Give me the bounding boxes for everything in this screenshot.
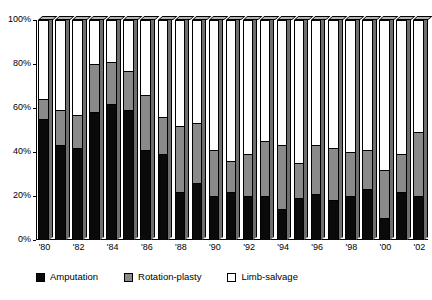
- bar-column[interactable]: [89, 20, 100, 240]
- bar-segment-limb-salvage: [362, 20, 373, 150]
- bar-side-face: [100, 17, 104, 240]
- y-tick-mark: [33, 240, 36, 241]
- bar-segment-rotation-plasty: [277, 145, 288, 209]
- bars-group: [36, 20, 428, 240]
- bar-column[interactable]: [192, 20, 203, 240]
- bar-side-face: [134, 17, 138, 240]
- bar-segment-amputation: [123, 110, 134, 240]
- bar-segment-rotation-plasty: [294, 163, 305, 198]
- bar-side-face: [253, 17, 257, 240]
- bar-segment-amputation: [345, 196, 356, 240]
- bar-segment-amputation: [413, 196, 424, 240]
- bar-column[interactable]: [55, 20, 66, 240]
- bar-segment-limb-salvage: [311, 20, 322, 145]
- x-tick-label: '94: [277, 242, 289, 252]
- bar-column[interactable]: [328, 20, 339, 240]
- legend-item[interactable]: Limb-salvage: [227, 272, 298, 282]
- bar-column[interactable]: [311, 20, 322, 240]
- bar-column[interactable]: [243, 20, 254, 240]
- x-tick-label: '02: [414, 242, 426, 252]
- bar-segment-amputation: [328, 200, 339, 240]
- bar-segment-rotation-plasty: [362, 150, 373, 190]
- bar-segment-limb-salvage: [158, 20, 169, 117]
- bar-column[interactable]: [123, 20, 134, 240]
- y-tick-label: 0%: [18, 235, 31, 244]
- bar-side-face: [66, 17, 70, 240]
- bar-segment-amputation: [175, 192, 186, 240]
- bar-segment-amputation: [55, 145, 66, 240]
- bar-segment-amputation: [89, 112, 100, 240]
- legend-item[interactable]: Amputation: [36, 272, 98, 282]
- bar-column[interactable]: [158, 20, 169, 240]
- bar-segment-limb-salvage: [396, 20, 407, 154]
- bar-column[interactable]: [260, 20, 271, 240]
- y-tick-label: 60%: [13, 103, 31, 112]
- limb-salvage-swatch: [227, 273, 236, 282]
- x-tick-label: '88: [175, 242, 187, 252]
- bar-segment-amputation: [260, 196, 271, 240]
- bar-column[interactable]: [38, 20, 49, 240]
- bar-segment-amputation: [38, 119, 49, 240]
- y-tick-label: 40%: [13, 147, 31, 156]
- bar-segment-rotation-plasty: [413, 132, 424, 196]
- bar-segment-rotation-plasty: [89, 64, 100, 112]
- bar-segment-limb-salvage: [277, 20, 288, 145]
- bar-column[interactable]: [175, 20, 186, 240]
- bar-column[interactable]: [277, 20, 288, 240]
- bar-segment-limb-salvage: [294, 20, 305, 163]
- bar-segment-limb-salvage: [140, 20, 151, 95]
- bar-side-face: [117, 17, 121, 240]
- bar-segment-amputation: [158, 154, 169, 240]
- bar-segment-amputation: [140, 150, 151, 240]
- bar-segment-amputation: [294, 198, 305, 240]
- bar-segment-amputation: [192, 183, 203, 240]
- bar-segment-limb-salvage: [345, 20, 356, 152]
- legend-label: Limb-salvage: [241, 272, 298, 282]
- bar-column[interactable]: [209, 20, 220, 240]
- legend-item[interactable]: Rotation-plasty: [124, 272, 201, 282]
- bar-side-face: [356, 17, 360, 240]
- bar-segment-limb-salvage: [89, 20, 100, 64]
- x-tick-label: '86: [141, 242, 153, 252]
- bar-side-face: [373, 17, 377, 240]
- bar-segment-rotation-plasty: [396, 154, 407, 191]
- bar-segment-rotation-plasty: [260, 141, 271, 196]
- bar-side-face: [407, 17, 411, 240]
- bar-column[interactable]: [226, 20, 237, 240]
- bar-segment-amputation: [311, 194, 322, 240]
- bar-segment-rotation-plasty: [192, 123, 203, 182]
- bar-column[interactable]: [140, 20, 151, 240]
- bar-segment-limb-salvage: [260, 20, 271, 141]
- bar-segment-amputation: [72, 148, 83, 240]
- y-tick-label: 80%: [13, 59, 31, 68]
- bar-column[interactable]: [72, 20, 83, 240]
- bar-column[interactable]: [379, 20, 390, 240]
- x-tick-label: '00: [380, 242, 392, 252]
- chart-legend: AmputationRotation-plastyLimb-salvage: [36, 268, 428, 286]
- bar-column[interactable]: [345, 20, 356, 240]
- bar-column[interactable]: [294, 20, 305, 240]
- legend-label: Rotation-plasty: [138, 272, 201, 282]
- bar-column[interactable]: [413, 20, 424, 240]
- bar-segment-limb-salvage: [328, 20, 339, 148]
- bar-column[interactable]: [396, 20, 407, 240]
- bar-side-face: [287, 17, 291, 240]
- bar-segment-limb-salvage: [379, 20, 390, 170]
- bar-segment-limb-salvage: [226, 20, 237, 161]
- x-tick-label: '82: [73, 242, 85, 252]
- x-tick-label: '84: [107, 242, 119, 252]
- chart-container: 0%20%40%60%80%100% '80'82'84'86'88'90'92…: [0, 0, 432, 300]
- bar-segment-amputation: [106, 104, 117, 240]
- bar-side-face: [168, 17, 172, 240]
- y-axis-labels: 0%20%40%60%80%100%: [0, 20, 34, 240]
- y-tick-label: 20%: [13, 191, 31, 200]
- legend-label: Amputation: [50, 272, 98, 282]
- bar-side-face: [49, 17, 53, 240]
- bar-segment-rotation-plasty: [328, 148, 339, 201]
- bar-column[interactable]: [362, 20, 373, 240]
- bar-segment-limb-salvage: [123, 20, 134, 71]
- bar-segment-limb-salvage: [243, 20, 254, 154]
- bar-side-face: [270, 17, 274, 240]
- bar-column[interactable]: [106, 20, 117, 240]
- x-tick-label: '80: [39, 242, 51, 252]
